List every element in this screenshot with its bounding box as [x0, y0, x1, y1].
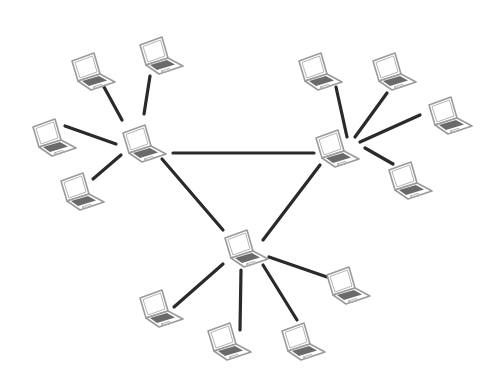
laptop-icon-bottom-mid-a	[208, 323, 251, 360]
link-hub-left-hub-bottom	[162, 159, 223, 230]
laptop-icon-hub-right	[316, 130, 359, 167]
link-left-top-a-hub-left	[104, 87, 122, 120]
laptop-nodes	[33, 37, 472, 360]
link-hub-bottom-bottom-mid-b	[263, 265, 297, 320]
laptop-icon-left-low	[61, 173, 104, 210]
laptop-icon-right-low	[389, 162, 432, 199]
link-hub-bottom-bottom-mid-a	[240, 270, 241, 330]
laptop-icon-bottom-right	[327, 267, 370, 304]
link-hub-bottom-bottom-left	[174, 264, 223, 307]
laptop-icon-left-top-a	[72, 53, 115, 90]
link-left-mid-hub-left	[65, 126, 116, 144]
link-left-top-b-hub-left	[144, 76, 150, 114]
laptop-icon-right-top-b	[373, 53, 416, 90]
link-right-low-hub-right	[365, 148, 393, 164]
laptop-icon-bottom-left	[140, 290, 183, 327]
laptop-icon-right-mid	[429, 97, 472, 134]
laptop-icon-left-mid	[33, 119, 76, 156]
connection-links	[65, 76, 420, 330]
link-hub-right-hub-bottom	[263, 165, 320, 240]
laptop-icon-bottom-mid-b	[282, 323, 325, 360]
laptop-icon-hub-left	[123, 125, 166, 162]
laptop-icon-hub-bottom	[225, 230, 268, 267]
laptop-icon-right-top-a	[299, 53, 342, 90]
link-hub-bottom-bottom-right	[269, 257, 327, 277]
link-left-low-hub-left	[93, 155, 121, 179]
laptop-icon-left-top-b	[140, 37, 183, 74]
network-diagram	[0, 0, 499, 384]
